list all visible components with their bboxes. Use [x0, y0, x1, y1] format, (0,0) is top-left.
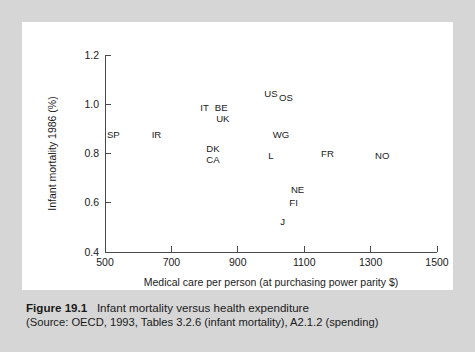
data-point-label: SP	[107, 129, 120, 140]
x-tick-label: 700	[163, 256, 181, 268]
data-point-label: NE	[291, 184, 304, 195]
data-point-label: FR	[321, 148, 334, 159]
data-point-label: IR	[152, 129, 162, 140]
figure-caption: Figure 19.1 Infant mortality versus heal…	[26, 300, 456, 330]
x-tick-label: 500	[96, 256, 114, 268]
y-tick-label: 1.2	[84, 49, 99, 61]
y-tick-label: 1.0	[84, 98, 99, 110]
data-point-label: NO	[375, 150, 389, 161]
y-tick-label: 0.6	[84, 196, 99, 208]
x-tick-label: 1100	[293, 256, 316, 268]
figure-container: 0.40.60.81.01.2500700900110013001500 SPI…	[0, 0, 475, 352]
data-point-label: WG	[273, 129, 290, 140]
data-point-label: IT	[200, 102, 209, 113]
figure-title-text: Infant mortality versus health expenditu…	[97, 301, 309, 314]
caption-source-line: (Source: OECD, 1993, Tables 3.2.6 (infan…	[26, 315, 456, 330]
data-point-label: L	[268, 150, 274, 161]
y-axis-title: Infant mortality 1986 (%)	[46, 96, 58, 210]
figure-number: Figure 19.1	[26, 301, 87, 314]
caption-title-line: Figure 19.1 Infant mortality versus heal…	[26, 300, 456, 315]
x-axis-title: Medical care per person (at purchasing p…	[144, 276, 398, 288]
x-tick-label: 1300	[359, 256, 383, 268]
y-tick-label: 0.8	[84, 147, 99, 159]
tick-labels-group: 0.40.60.81.01.2500700900110013001500	[84, 49, 448, 268]
x-tick-label: 900	[229, 256, 247, 268]
data-points-group: SPIRITBEUKDKCAUSOSWGLFRNONEFIJ	[107, 88, 390, 227]
data-point-label: FI	[289, 197, 298, 208]
data-point-label: J	[280, 216, 285, 227]
data-point-label: UK	[216, 113, 230, 124]
data-point-label: CA	[206, 154, 220, 165]
scatter-plot: 0.40.60.81.01.2500700900110013001500 SPI…	[22, 22, 453, 290]
figure-title: Infant mortality versus health expenditu…	[87, 301, 309, 314]
data-point-label: DK	[206, 143, 220, 154]
data-point-label: US	[264, 88, 277, 99]
plot-panel: 0.40.60.81.01.2500700900110013001500 SPI…	[22, 22, 453, 290]
x-tick-label: 1500	[425, 256, 449, 268]
data-point-label: BE	[215, 102, 228, 113]
data-point-label: OS	[279, 92, 293, 103]
